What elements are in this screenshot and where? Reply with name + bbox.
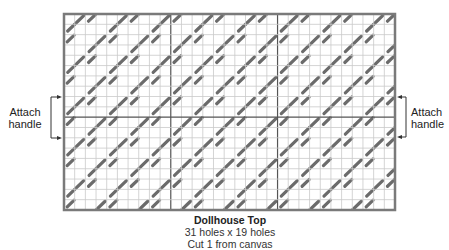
left-attach-label: Attach handle: [2, 106, 48, 130]
arrow-right-icon: [57, 136, 62, 140]
diagram-cut-note: Cut 1 from canvas: [0, 238, 449, 250]
arrow-right-icon: [57, 95, 62, 99]
diagram-title: Dollhouse Top: [0, 214, 449, 226]
right-attach-bracket: [397, 95, 406, 139]
arrow-left-icon: [397, 95, 402, 99]
right-attach-label: Attach handle: [411, 106, 449, 130]
arrow-left-icon: [397, 135, 402, 139]
left-attach-bracket: [51, 95, 62, 140]
diagram-dimensions: 31 holes x 19 holes: [0, 226, 449, 238]
